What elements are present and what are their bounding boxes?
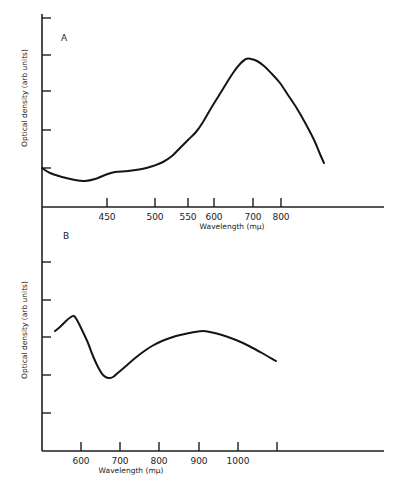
x-tick-label: 700: [111, 456, 128, 466]
x-tick-label: 600: [72, 456, 89, 466]
panel-a-y-axis-label: Optical density (arb units): [20, 49, 29, 147]
panel-b-x-ticks: 6007008009001000: [72, 442, 277, 466]
panel-b-label: B: [63, 231, 69, 241]
x-tick-label: 550: [179, 212, 196, 222]
panel-b-x-axis-label: Wavelength (mμ): [99, 466, 164, 475]
x-tick-label: 500: [146, 212, 163, 222]
panel-a-y-ticks: [42, 18, 51, 168]
panel-b-y-axis-label: Optical density (arb units): [20, 281, 29, 379]
chart-canvas: 450500550600700800 A Wavelength (mμ) Opt…: [0, 0, 397, 487]
panel-b: 6007008009001000 B Wavelength (mμ) Optic…: [20, 231, 384, 475]
x-tick-label: 700: [244, 212, 261, 222]
panel-b-spectrum-curve: [55, 316, 276, 378]
panel-a-label: A: [61, 33, 68, 43]
x-tick-label: 450: [98, 212, 115, 222]
panel-a-spectrum-curve: [42, 59, 324, 181]
figure: 450500550600700800 A Wavelength (mμ) Opt…: [0, 0, 397, 487]
x-tick-label: 600: [205, 212, 222, 222]
panel-b-y-ticks: [42, 262, 51, 413]
panel-a: 450500550600700800 A Wavelength (mμ) Opt…: [20, 18, 384, 231]
x-tick-label: 800: [150, 456, 167, 466]
panel-a-x-axis-label: Wavelength (mμ): [200, 222, 265, 231]
x-tick-label: 1000: [227, 456, 250, 466]
panel-a-x-ticks: 450500550600700800: [98, 198, 289, 222]
x-tick-label: 800: [272, 212, 289, 222]
x-tick-label: 900: [190, 456, 207, 466]
